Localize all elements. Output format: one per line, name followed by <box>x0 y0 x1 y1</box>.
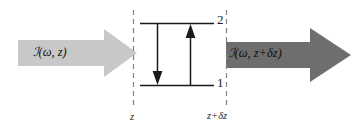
emission-transition-arrow <box>153 24 163 85</box>
incoming-beam-label-args: (ω, z) <box>39 45 67 59</box>
outgoing-beam-label-args: (ω, z+δz) <box>235 46 282 60</box>
lower-level-label: 1 <box>217 76 224 89</box>
outgoing-beam-label: ℐ(ω, z+δz) <box>229 47 282 60</box>
slab-right-boundary-label: z+δz <box>207 111 227 122</box>
incoming-beam-label: ℐ(ω, z) <box>33 46 67 59</box>
beams-layer <box>0 0 361 133</box>
slab-left-boundary-label: z <box>130 112 134 123</box>
figure-root: ℐ(ω, z) ℐ(ω, z+δz) 2 1 z z+δz <box>0 0 361 133</box>
absorption-transition-arrow <box>186 24 196 85</box>
upper-level-label: 2 <box>217 13 224 26</box>
